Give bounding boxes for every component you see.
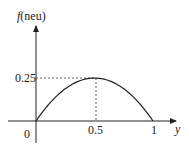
y-axis-label: f(neu) (17, 9, 46, 23)
x-tick-label-1: 1 (151, 123, 157, 137)
x-axis-label: y (174, 122, 181, 136)
x-tick-label-0.5: 0.5 (88, 123, 103, 137)
y-tick-label: 0.25 (15, 71, 36, 85)
curve-series (36, 78, 153, 121)
x-tick-label-0: 0 (24, 127, 30, 141)
chart: f(neu) 0.25 0 0.5 1 y (0, 0, 189, 158)
